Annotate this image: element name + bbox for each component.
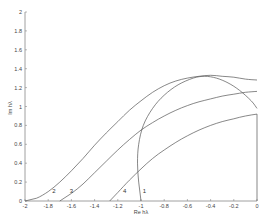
y-tick-label: 0.6 [14,141,22,147]
y-tick-label: 0.8 [14,122,22,128]
x-tick-label: 0 [255,203,258,209]
y-tick-label: 1.8 [14,28,22,34]
x-tick-label: -1.2 [113,203,122,209]
y-tick-label: 1.2 [14,85,22,91]
x-tick-label: -1.4 [90,203,99,209]
curve-2 [25,75,257,201]
x-axis-label: Re hλ [134,209,149,215]
curves [25,75,257,201]
curve-label-4: 4 [123,188,127,194]
curve-label-2: 2 [52,188,56,194]
x-tick-label: -0.8 [159,203,168,209]
y-tick-label: 1.4 [14,66,22,72]
y-tick-label: 0 [19,198,22,204]
x-tick-label: -2 [23,203,28,209]
stability-region-chart: -2-1.8-1.6-1.4-1.2-1-0.8-0.6-0.4-0.20 00… [0,0,269,224]
x-axis-ticks: -2-1.8-1.6-1.4-1.2-1-0.8-0.6-0.4-0.20 [23,199,259,209]
y-tick-label: 2 [19,9,22,15]
y-tick-label: 1 [19,104,22,110]
curve-3 [60,91,257,201]
y-axis-label: Im hλ [7,101,13,115]
curve-label-1: 1 [143,188,147,194]
y-tick-label: 1.6 [14,47,22,53]
x-tick-label: -0.6 [183,203,192,209]
curve-4 [110,114,257,201]
x-tick-label: -0.4 [206,203,215,209]
curve-1 [138,76,258,201]
y-tick-label: 0.2 [14,179,22,185]
y-tick-label: 0.4 [14,160,22,166]
plot-area: -2-1.8-1.6-1.4-1.2-1-0.8-0.6-0.4-0.20 00… [7,9,259,215]
x-tick-label: -1.6 [67,203,76,209]
x-tick-label: -1.8 [43,203,52,209]
curve-label-3: 3 [70,188,74,194]
x-tick-label: -0.2 [229,203,238,209]
curve-labels: 1234 [52,188,146,194]
